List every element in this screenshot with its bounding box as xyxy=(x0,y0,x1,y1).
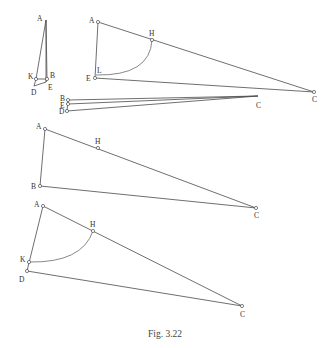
point-label-e: E xyxy=(86,74,91,83)
point-label-h: H xyxy=(90,220,96,229)
point-label-c: C xyxy=(240,310,245,319)
point-label-a: A xyxy=(89,16,95,25)
point-marker-c xyxy=(240,304,243,307)
point-marker-h xyxy=(96,146,99,149)
segment-dc xyxy=(27,271,242,306)
geometry-diagram: ABEKD AHLEC BEDC AHBC AHKDC xyxy=(0,0,330,348)
point-marker-a xyxy=(43,127,46,130)
point-label-d: D xyxy=(59,107,65,116)
segment-ec xyxy=(95,78,314,92)
segment-ac xyxy=(43,206,242,306)
figure-triangle-thin: BEDC xyxy=(59,94,261,116)
point-marker-c xyxy=(254,206,257,209)
point-marker-h xyxy=(150,38,153,41)
figure-triangle-small: ABEKD xyxy=(28,14,55,97)
point-label-c: C xyxy=(254,211,259,220)
arc-hl xyxy=(96,40,152,75)
point-marker-k xyxy=(27,260,30,263)
point-label-c: C xyxy=(256,101,261,110)
point-label-c: C xyxy=(312,95,317,104)
figure-triangle-arc-hl: AHLEC xyxy=(86,16,317,104)
point-label-a: A xyxy=(34,200,40,209)
point-label-d: D xyxy=(31,88,37,97)
segment-ac xyxy=(98,22,314,92)
point-marker-b xyxy=(38,184,41,187)
segment-ac xyxy=(45,129,256,208)
point-marker-d xyxy=(25,269,28,272)
point-label-h: H xyxy=(95,137,101,146)
point-marker-a xyxy=(41,204,44,207)
point-marker-k xyxy=(34,77,37,80)
point-marker-e xyxy=(93,76,96,79)
point-label-e: E xyxy=(48,83,53,92)
figure-triangle-arc-hk: AHKDC xyxy=(19,200,245,319)
point-label-k: K xyxy=(20,255,26,264)
segment-de xyxy=(34,82,46,86)
arc-hk xyxy=(29,231,93,262)
point-label-b: B xyxy=(31,182,36,191)
point-marker-c xyxy=(312,90,315,93)
point-label-a: A xyxy=(36,122,42,131)
segment-ak xyxy=(36,20,46,79)
point-label-l: L xyxy=(97,66,102,75)
figure-caption: Fig. 3.22 xyxy=(0,329,330,339)
segment-ab xyxy=(40,129,45,186)
point-marker-e xyxy=(66,102,69,105)
point-marker-b xyxy=(45,77,48,80)
point-marker-a xyxy=(96,20,99,23)
point-marker-d xyxy=(65,109,68,112)
segment-bc xyxy=(40,186,256,208)
point-label-a: A xyxy=(37,14,43,23)
point-marker-h xyxy=(91,229,94,232)
point-label-h: H xyxy=(149,29,155,38)
point-marker-b xyxy=(66,98,69,101)
point-label-k: K xyxy=(28,72,34,81)
segment-ec xyxy=(68,96,258,104)
point-label-d: D xyxy=(19,275,25,284)
point-label-b: B xyxy=(50,71,55,80)
figure-triangle-abc: AHBC xyxy=(31,122,259,220)
